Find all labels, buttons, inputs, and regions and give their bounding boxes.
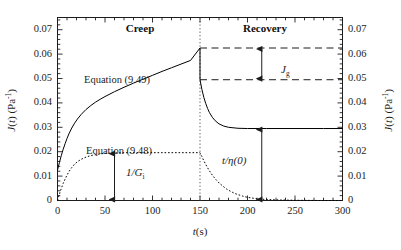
annotation-jg-subscript: g [286,69,290,78]
annotation-equation-948: Equation (9.48) [86,146,152,157]
region-label-creep: Creep [95,23,185,34]
x-tick-label-4: 200 [228,206,268,217]
data-series-group [58,48,343,201]
x-axis-title: t(s) [170,226,230,237]
x-tick-label-3: 150 [180,206,220,217]
y2-tick-label-2: 0.02 [348,146,392,157]
annotation-jg: Jg [281,64,290,78]
y-tick-label-6: 0.06 [8,49,52,60]
y-tick-label-2: 0.02 [8,146,52,157]
y-axis-title-text: J [5,127,17,132]
annotation-inverse-gi-subscript: i [143,172,145,181]
x-tick-label-5: 250 [275,206,315,217]
y2-axis-title-text: J [382,127,394,132]
x-tick-label-2: 100 [133,206,173,217]
y2-axis-title: J(t) (Pa-1) [382,80,395,140]
annotation-inverse-gi-symbol: 1/G [126,166,143,178]
guide-lines [200,18,343,201]
y-tick-label-7: 0.07 [8,24,52,35]
y-axis-major-ticks [58,30,63,201]
y-tick-label-0: 0 [8,195,52,206]
y-tick-label-1: 0.01 [8,171,52,182]
y2-tick-label-7: 0.07 [348,24,392,35]
annotation-t-over-eta: t/η(0) [222,155,246,166]
y2-tick-label-1: 0.01 [348,171,392,182]
y2-tick-label-0: 0 [348,195,392,206]
y2-axis-major-ticks [338,30,343,201]
annotation-inverse-gi: 1/Gi [126,167,145,181]
x-tick-label-6: 300 [323,206,363,217]
x-tick-label-1: 50 [85,206,125,217]
annotation-equation-949: Equation (9.49) [84,75,150,86]
y2-tick-label-6: 0.06 [348,49,392,60]
y-axis-title: J(t) (Pa-1) [5,80,18,140]
x-tick-label-0: 0 [38,206,78,217]
region-label-recovery: Recovery [215,23,315,34]
creep-recovery-chart-figure: 00.010.020.030.040.050.060.07 00.010.020… [0,0,401,250]
